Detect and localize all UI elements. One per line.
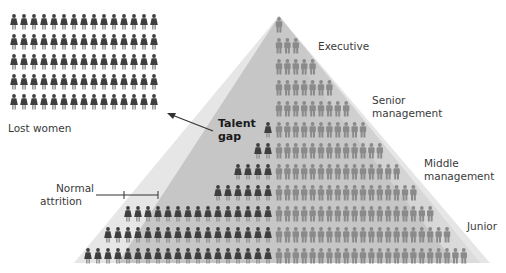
woman-icon bbox=[10, 14, 18, 29]
woman-icon bbox=[60, 34, 68, 49]
woman-icon bbox=[150, 74, 158, 89]
label-senior-2: management bbox=[372, 107, 442, 120]
woman-icon bbox=[20, 34, 28, 49]
woman-icon bbox=[30, 34, 38, 49]
talent-pyramid-diagram: Executive Senior management Middle manag… bbox=[0, 0, 506, 273]
woman-icon bbox=[130, 34, 138, 49]
woman-icon bbox=[100, 54, 108, 69]
woman-icon bbox=[40, 94, 48, 109]
woman-icon bbox=[90, 54, 98, 69]
woman-icon bbox=[10, 54, 18, 69]
woman-icon bbox=[130, 54, 138, 69]
woman-icon bbox=[40, 74, 48, 89]
woman-icon bbox=[130, 94, 138, 109]
label-lost-women: Lost women bbox=[8, 122, 71, 135]
woman-icon bbox=[120, 94, 128, 109]
woman-icon bbox=[140, 14, 148, 29]
woman-icon bbox=[120, 34, 128, 49]
woman-icon bbox=[130, 14, 138, 29]
woman-icon bbox=[10, 74, 18, 89]
woman-icon bbox=[140, 94, 148, 109]
woman-icon bbox=[110, 34, 118, 49]
pyramid-graphic bbox=[0, 0, 506, 273]
woman-icon bbox=[100, 74, 108, 89]
woman-icon bbox=[50, 14, 58, 29]
woman-icon bbox=[140, 54, 148, 69]
label-executive: Executive bbox=[318, 40, 369, 53]
woman-icon bbox=[20, 74, 28, 89]
woman-icon bbox=[20, 94, 28, 109]
label-normal-attrition-1: Normal bbox=[56, 182, 94, 195]
woman-icon bbox=[60, 94, 68, 109]
label-middle-2: management bbox=[424, 170, 494, 183]
label-talent-gap-2: gap bbox=[218, 130, 241, 143]
woman-icon bbox=[90, 14, 98, 29]
woman-icon bbox=[50, 74, 58, 89]
woman-icon bbox=[60, 14, 68, 29]
woman-icon bbox=[120, 74, 128, 89]
woman-icon bbox=[110, 14, 118, 29]
woman-icon bbox=[40, 34, 48, 49]
label-talent-gap-1: Talent bbox=[218, 117, 256, 130]
woman-icon bbox=[30, 14, 38, 29]
woman-icon bbox=[80, 94, 88, 109]
woman-icon bbox=[70, 54, 78, 69]
woman-icon bbox=[20, 14, 28, 29]
woman-icon bbox=[10, 34, 18, 49]
woman-icon bbox=[100, 14, 108, 29]
woman-icon bbox=[50, 54, 58, 69]
woman-icon bbox=[70, 94, 78, 109]
woman-icon bbox=[10, 94, 18, 109]
woman-icon bbox=[20, 54, 28, 69]
woman-icon bbox=[150, 34, 158, 49]
woman-icon bbox=[110, 94, 118, 109]
lost-women-grid bbox=[10, 14, 158, 109]
woman-icon bbox=[80, 74, 88, 89]
woman-icon bbox=[140, 74, 148, 89]
woman-icon bbox=[60, 74, 68, 89]
woman-icon bbox=[80, 54, 88, 69]
woman-icon bbox=[150, 94, 158, 109]
woman-icon bbox=[70, 34, 78, 49]
woman-icon bbox=[150, 14, 158, 29]
label-senior-1: Senior bbox=[372, 94, 405, 107]
woman-icon bbox=[110, 54, 118, 69]
woman-icon bbox=[120, 54, 128, 69]
woman-icon bbox=[40, 14, 48, 29]
woman-icon bbox=[100, 94, 108, 109]
woman-icon bbox=[30, 54, 38, 69]
woman-icon bbox=[60, 54, 68, 69]
woman-icon bbox=[70, 74, 78, 89]
woman-icon bbox=[120, 14, 128, 29]
woman-icon bbox=[50, 94, 58, 109]
woman-icon bbox=[30, 74, 38, 89]
woman-icon bbox=[110, 74, 118, 89]
woman-icon bbox=[70, 14, 78, 29]
woman-icon bbox=[90, 74, 98, 89]
woman-icon bbox=[100, 34, 108, 49]
woman-icon bbox=[140, 34, 148, 49]
woman-icon bbox=[50, 34, 58, 49]
label-junior: Junior bbox=[467, 220, 497, 233]
label-normal-attrition-2: attrition bbox=[40, 195, 82, 208]
woman-icon bbox=[150, 54, 158, 69]
woman-icon bbox=[40, 54, 48, 69]
woman-icon bbox=[90, 94, 98, 109]
woman-icon bbox=[130, 74, 138, 89]
woman-icon bbox=[80, 34, 88, 49]
woman-icon bbox=[30, 94, 38, 109]
woman-icon bbox=[80, 14, 88, 29]
label-middle-1: Middle bbox=[424, 157, 459, 170]
woman-icon bbox=[90, 34, 98, 49]
